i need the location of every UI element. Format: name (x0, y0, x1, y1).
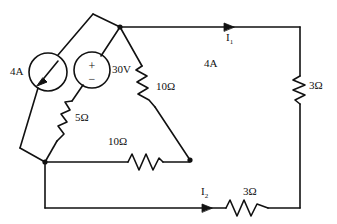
current-i2-label: I2 (201, 186, 208, 200)
node-bottom-right (187, 157, 192, 162)
resistor-10ohm-diagonal-label: 10Ω (156, 81, 175, 92)
voltage-source-minus-sign: − (86, 73, 98, 85)
resistor-3ohm-right-label: 3Ω (309, 80, 323, 91)
wire-diag-10ohm-upper (120, 27, 142, 66)
wire-vsource-to-5ohm (72, 85, 83, 101)
current-i1-label: I1 (226, 32, 233, 46)
current-i1-subscript: 1 (230, 38, 234, 46)
current-i2-arrowhead (202, 204, 212, 212)
circuit-diagram: 4A 30V + − 5Ω 10Ω 10Ω 3Ω 3Ω I1 I2 4A (0, 0, 337, 224)
wire-isource-bottom-seg (20, 148, 45, 162)
voltage-source-plus-sign: + (86, 60, 98, 72)
wire-diag-10ohm-lower (155, 107, 190, 160)
wire-isource-lower (20, 88, 38, 148)
resistor-5ohm-label: 5Ω (75, 112, 89, 123)
node-top (117, 24, 122, 29)
current-source-arrow-head (37, 78, 47, 86)
circuit-schematic-svg (0, 0, 337, 224)
resistor-10ohm-diagonal-zigzag (136, 66, 155, 107)
current-i2-subscript: 2 (205, 192, 209, 200)
mesh-current-4a-label: 4A (204, 58, 217, 69)
wire-5ohm-to-node (45, 141, 57, 162)
resistor-3ohm-right-zigzag (293, 76, 305, 104)
resistor-3ohm-bottom-label: 3Ω (243, 186, 257, 197)
wire-isource-upper (58, 14, 93, 55)
wire-vsource-upper (101, 27, 120, 56)
resistor-5ohm-zigzag (57, 101, 72, 141)
node-bottom-left (42, 159, 47, 164)
resistor-10ohm-bottom-label: 10Ω (108, 136, 127, 147)
resistor-3ohm-bottom-zigzag (226, 200, 268, 216)
current-source-label: 4A (10, 66, 23, 77)
wire-isource-top-seg (93, 14, 120, 27)
current-i1-arrowhead (224, 23, 234, 31)
resistor-10ohm-bottom-zigzag (128, 154, 163, 170)
voltage-source-label: 30V (112, 64, 131, 75)
